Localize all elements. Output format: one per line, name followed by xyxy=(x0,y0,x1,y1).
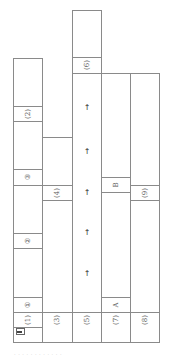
label-col1-seg1: ① xyxy=(25,302,32,308)
divider xyxy=(13,169,43,170)
row-label-col4: (7) xyxy=(113,315,120,325)
divider xyxy=(13,233,43,234)
divider xyxy=(101,312,131,313)
divider xyxy=(101,177,131,178)
arrow-up-icon: ↑ xyxy=(84,270,91,278)
arrow-up-icon: ↑ xyxy=(84,189,91,197)
label-col1-seg3: ③ xyxy=(25,174,32,180)
divider xyxy=(72,312,102,313)
divider xyxy=(130,200,160,201)
label-col2-seg1: (4) xyxy=(54,188,61,198)
caption: · · · · · · · · · · · · xyxy=(14,351,62,357)
label-col1-seg4: (2) xyxy=(25,109,32,119)
divider xyxy=(42,312,73,313)
label-col1-seg2: ② xyxy=(25,238,32,244)
divider xyxy=(13,297,43,298)
figure-marker-icon xyxy=(16,328,25,335)
label-col5-seg1: (9) xyxy=(142,188,149,198)
label-col4-seg1: A xyxy=(113,302,120,307)
row-label-col1: (1) xyxy=(25,315,32,325)
divider xyxy=(13,312,43,313)
divider xyxy=(42,200,73,201)
arrow-up-icon: ↑ xyxy=(84,104,91,112)
column-1 xyxy=(13,58,43,343)
divider xyxy=(42,185,73,186)
divider xyxy=(72,73,102,74)
divider xyxy=(13,248,43,249)
row-label-col3: (5) xyxy=(84,315,91,325)
row-label-col2: (3) xyxy=(54,315,61,325)
rotated-diagram: (2) ③ ② ① (1) (4) (3) (6) ↑ ↑ ↑ ↑ ↑ (5) … xyxy=(0,0,173,360)
divider xyxy=(130,185,160,186)
divider xyxy=(13,106,43,107)
divider xyxy=(101,192,131,193)
arrow-up-icon: ↑ xyxy=(84,148,91,156)
divider xyxy=(13,185,43,186)
label-col4-seg2: B xyxy=(113,182,120,187)
column-5 xyxy=(130,73,160,343)
divider xyxy=(13,121,43,122)
divider xyxy=(101,297,131,298)
divider xyxy=(130,312,160,313)
row-label-col5: (8) xyxy=(142,315,149,325)
divider xyxy=(72,57,102,58)
arrow-up-icon: ↑ xyxy=(84,229,91,237)
label-col3-seg1: (6) xyxy=(84,60,91,70)
